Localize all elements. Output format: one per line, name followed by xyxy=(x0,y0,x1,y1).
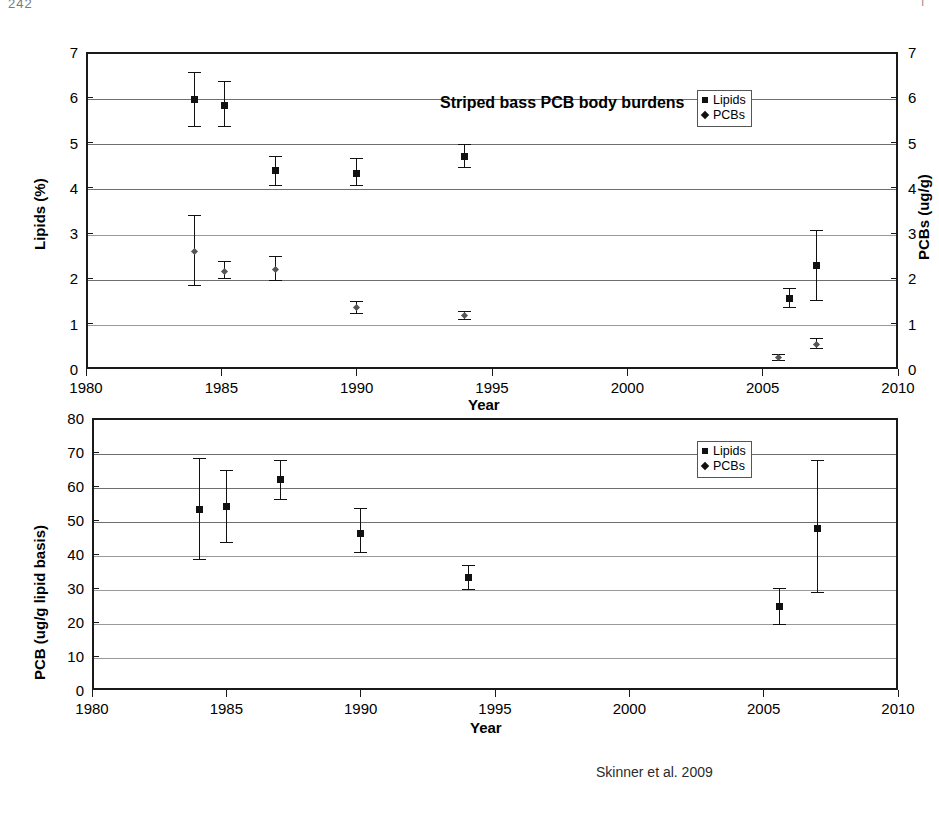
legend-bottom: Lipids PCBs xyxy=(697,441,752,478)
legend-label: PCBs xyxy=(713,459,745,474)
x-axis-title: Year xyxy=(470,720,502,735)
plot-area-bottom xyxy=(92,418,898,690)
y-axis-tick-label: 0 xyxy=(46,683,84,698)
legend-label: Lipids xyxy=(713,444,746,459)
x-axis-tick-mark xyxy=(92,690,93,697)
legend-item-lipids: Lipids xyxy=(702,444,746,459)
gridline xyxy=(94,556,896,557)
figure-page: 242 | Lipids (%) PCBs (ug/g) Striped bas… xyxy=(0,0,939,815)
y-axis-tick-label: 50 xyxy=(46,513,84,528)
figure-caption: Skinner et al. 2009 xyxy=(596,764,713,780)
x-axis-tick-label: 2005 xyxy=(732,701,796,716)
y-axis-tick-label: 10 xyxy=(46,649,84,664)
chart-pcb-lipid-basis-bottom: PCB (ug/g lipid basis) Lipids PCBs Year … xyxy=(0,0,939,760)
y-axis-tick-mark xyxy=(92,554,99,555)
y-axis-tick-label: 40 xyxy=(46,547,84,562)
y-axis-tick-mark xyxy=(92,452,99,453)
y-axis-tick-label: 30 xyxy=(46,581,84,596)
y-axis-title-pcb-lipid: PCB (ug/g lipid basis) xyxy=(32,525,47,680)
y-axis-tick-label: 70 xyxy=(46,445,84,460)
legend-item-pcbs: PCBs xyxy=(702,459,746,474)
y-axis-tick-mark xyxy=(92,588,99,589)
x-axis-tick-mark xyxy=(629,690,630,697)
gridline xyxy=(94,522,896,523)
y-axis-tick-mark xyxy=(92,656,99,657)
y-axis-tick-mark xyxy=(92,486,99,487)
diamond-marker-icon xyxy=(701,462,709,470)
x-axis-tick-label: 2010 xyxy=(866,701,930,716)
gridline xyxy=(94,624,896,625)
x-axis-tick-label: 1990 xyxy=(329,701,393,716)
x-axis-tick-label: 1995 xyxy=(463,701,527,716)
square-marker-icon xyxy=(702,448,708,454)
x-axis-tick-mark xyxy=(226,690,227,697)
x-axis-tick-label: 1980 xyxy=(60,701,124,716)
gridline xyxy=(94,488,896,489)
y-axis-tick-label: 60 xyxy=(46,479,84,494)
y-axis-tick-mark xyxy=(92,622,99,623)
x-axis-tick-mark xyxy=(360,690,361,697)
gridline xyxy=(94,590,896,591)
x-axis-tick-mark xyxy=(763,690,764,697)
x-axis-tick-label: 2000 xyxy=(597,701,661,716)
x-axis-tick-mark xyxy=(898,690,899,697)
y-axis-tick-label: 20 xyxy=(46,615,84,630)
y-axis-tick-mark xyxy=(92,520,99,521)
x-axis-tick-label: 1985 xyxy=(194,701,258,716)
x-axis-tick-mark xyxy=(495,690,496,697)
gridline xyxy=(94,658,896,659)
y-axis-tick-label: 80 xyxy=(46,411,84,426)
gridline xyxy=(94,454,896,455)
